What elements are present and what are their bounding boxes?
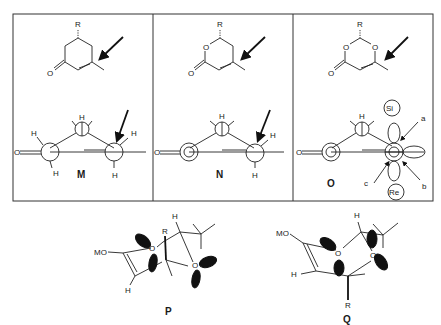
- panel-m: R O H O: [14, 20, 146, 180]
- newman-projection-o: H O Si Re a b: [296, 100, 427, 200]
- svg-text:H: H: [219, 112, 225, 121]
- trajectory-c-icon: [374, 163, 388, 183]
- svg-text:O: O: [154, 148, 160, 157]
- svg-text:R: R: [357, 20, 363, 29]
- structure-q: MO H O H O R Q: [276, 211, 398, 325]
- svg-text:H: H: [252, 171, 258, 180]
- svg-text:H: H: [31, 129, 37, 138]
- panel-label-m: M: [77, 169, 85, 180]
- svg-text:H: H: [291, 270, 297, 279]
- svg-text:O: O: [372, 43, 378, 52]
- svg-text:O: O: [188, 69, 194, 78]
- structure-p: MO H O R H O P: [94, 212, 218, 317]
- attack-arrow-icon: [388, 37, 408, 57]
- p-orbital-lobe-bottom: [388, 161, 400, 181]
- svg-text:H: H: [125, 286, 131, 295]
- lone-pair-lobe: [190, 269, 201, 288]
- svg-text:O: O: [343, 43, 349, 52]
- attack-arrow-icon: [118, 110, 128, 138]
- lone-pair-lobe: [367, 230, 377, 248]
- lone-pair-lobe: [334, 260, 344, 276]
- svg-text:R: R: [217, 20, 223, 29]
- svg-text:H: H: [131, 129, 137, 138]
- attack-arrow-icon: [259, 110, 270, 138]
- cyclohexenone-structure: R O: [47, 20, 123, 78]
- dioxinone-structure: R O O O: [328, 20, 408, 78]
- svg-text:b: b: [422, 182, 427, 191]
- dihydropyranone-structure: R O O: [188, 20, 265, 78]
- carbonyl-o-label: O: [47, 69, 53, 78]
- stereochemistry-figure: R O H O: [0, 0, 441, 325]
- attack-arrow-icon: [244, 37, 265, 57]
- svg-text:MO: MO: [94, 248, 107, 257]
- attack-arrow-icon: [102, 37, 123, 57]
- svg-text:Re: Re: [389, 188, 400, 197]
- svg-text:R: R: [162, 227, 168, 236]
- svg-text:MO: MO: [276, 229, 289, 238]
- lone-pair-lobe: [147, 253, 158, 272]
- svg-text:c: c: [364, 179, 368, 188]
- structure-label-p: P: [165, 306, 172, 317]
- newman-projection-n: H O H H N: [154, 110, 284, 180]
- panel-o: R O O O H: [296, 20, 427, 200]
- structure-label-q: Q: [343, 314, 351, 325]
- trajectory-a-icon: [402, 122, 418, 139]
- newman-projection-m: H O H H H H M: [14, 110, 146, 180]
- svg-text:H: H: [112, 171, 118, 180]
- lone-pair-lobe: [198, 254, 218, 270]
- svg-text:H: H: [172, 212, 178, 221]
- svg-text:O: O: [335, 249, 341, 258]
- svg-text:O: O: [328, 69, 334, 78]
- svg-text:R: R: [345, 301, 351, 310]
- svg-text:H: H: [270, 131, 276, 140]
- panel-label-o: O: [327, 178, 335, 189]
- p-orbital-lobe-top: [388, 123, 400, 143]
- r-label: R: [75, 20, 81, 29]
- svg-text:H: H: [53, 169, 59, 178]
- svg-text:H: H: [359, 112, 365, 121]
- trajectory-b-icon: [404, 163, 420, 180]
- svg-text:O: O: [296, 148, 302, 157]
- panel-label-n: N: [216, 169, 223, 180]
- ring-o-label: O: [203, 43, 209, 52]
- svg-text:Si: Si: [386, 104, 393, 113]
- svg-text:H: H: [79, 113, 85, 122]
- panel-n: R O O H: [154, 20, 284, 180]
- svg-text:O: O: [192, 261, 198, 270]
- svg-text:H: H: [354, 211, 360, 220]
- svg-text:O: O: [14, 148, 20, 157]
- svg-text:a: a: [421, 114, 426, 123]
